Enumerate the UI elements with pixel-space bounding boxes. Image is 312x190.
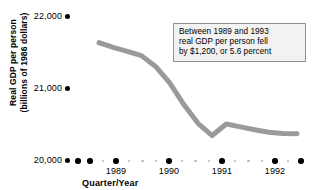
x-year-label-1991: 1991 bbox=[208, 166, 236, 176]
x-year-label-1989: 1989 bbox=[102, 166, 130, 176]
x-axis-major-tick bbox=[113, 158, 119, 164]
gdp-per-person-line-chart: Real GDP per person (billions of 1986 do… bbox=[0, 0, 312, 190]
x-axis-minor-tick bbox=[261, 160, 263, 162]
x-axis-minor-tick bbox=[102, 160, 104, 162]
x-axis-title: Quarter/Year bbox=[82, 178, 138, 188]
annotation-line-2: real GDP per person fell bbox=[179, 37, 300, 47]
x-year-label-1992: 1992 bbox=[261, 166, 289, 176]
x-axis-minor-tick bbox=[155, 160, 157, 162]
annotation-line-1: Between 1989 and 1993 bbox=[179, 27, 300, 37]
x-axis-major-tick bbox=[87, 158, 93, 164]
x-axis-minor-tick bbox=[287, 160, 289, 162]
x-axis-minor-tick bbox=[247, 160, 249, 162]
x-axis-minor-tick bbox=[141, 160, 143, 162]
x-axis-major-tick bbox=[219, 158, 225, 164]
x-year-label-1990: 1990 bbox=[155, 166, 183, 176]
x-axis-major-tick bbox=[272, 158, 278, 164]
annotation-line-3: by $1,200, or 5.6 percent bbox=[179, 47, 300, 57]
annotation-callout: Between 1989 and 1993 real GDP per perso… bbox=[173, 23, 306, 62]
x-axis-major-tick bbox=[298, 158, 304, 164]
x-axis-minor-tick bbox=[194, 160, 196, 162]
x-axis-major-tick bbox=[166, 158, 172, 164]
x-axis-major-tick bbox=[75, 158, 81, 164]
x-axis-minor-tick bbox=[208, 160, 210, 162]
